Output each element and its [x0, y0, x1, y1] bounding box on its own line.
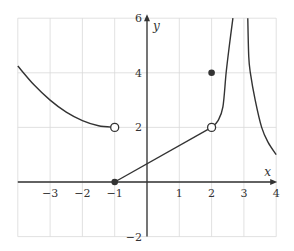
x-tick-label: −3 [42, 187, 58, 200]
x-tick-label: 3 [240, 187, 247, 200]
asymptote-right-branch-curve [248, 18, 276, 155]
left-parabola-curve [18, 66, 115, 127]
y-tick-label: −2 [126, 231, 142, 244]
line-segment-curve [115, 127, 212, 182]
open-point-marker [111, 123, 119, 131]
x-tick-label: −2 [74, 187, 90, 200]
closed-point-marker [208, 70, 215, 77]
x-tick-label: 2 [208, 187, 215, 200]
y-axis-label: y [152, 19, 160, 33]
axes: x y [18, 14, 277, 236]
closed-point-marker [111, 179, 118, 186]
x-tick-label: −1 [107, 187, 123, 200]
function-graph: x y −3−2−11234−2246 [0, 0, 294, 251]
y-tick-label: 4 [135, 67, 142, 80]
y-tick-label: 2 [135, 121, 142, 134]
y-tick-label: 6 [135, 12, 142, 25]
y-axis-arrow-icon [144, 14, 150, 21]
open-point-marker [208, 123, 216, 131]
x-axis-label: x [264, 165, 271, 179]
x-tick-label: 1 [176, 187, 183, 200]
x-tick-label: 4 [273, 187, 280, 200]
